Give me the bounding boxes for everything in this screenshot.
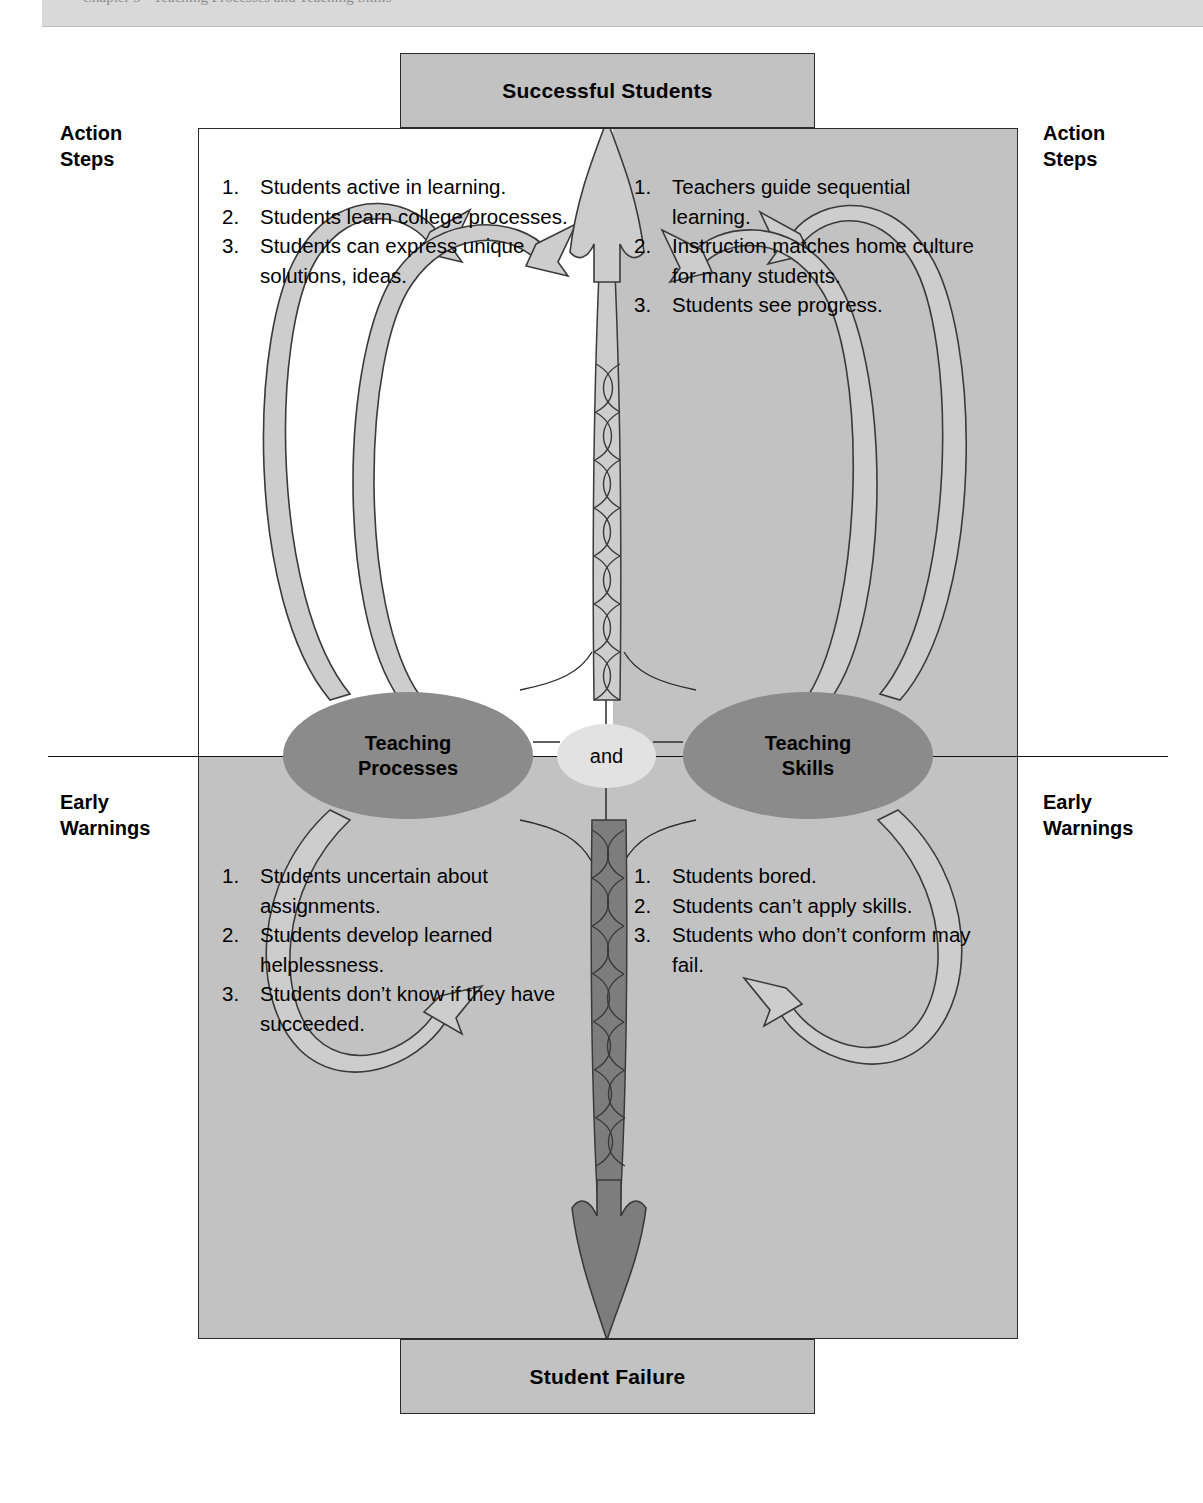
list-item-text: Students who don’t conform may fail.	[672, 920, 984, 979]
list-item: 2. Students can’t apply skills.	[634, 891, 984, 921]
list-item-text: Students uncertain about assignments.	[260, 861, 592, 920]
outcome-box-bottom-label: Student Failure	[530, 1365, 686, 1389]
quadrant-list-bottom-right: 1. Students bored. 2. Students can’t app…	[634, 861, 984, 979]
list-item-number: 1.	[222, 172, 260, 202]
list-item-text: Students develop learned helplessness.	[260, 920, 592, 979]
side-label-early-warnings-right: Early Warnings	[1043, 789, 1133, 841]
list-item: 3. Students who don’t conform may fail.	[634, 920, 984, 979]
list-item-number: 2.	[222, 202, 260, 232]
list-item-text: Students can express unique solutions, i…	[260, 231, 592, 290]
list-item-number: 3.	[634, 920, 672, 950]
list-item: 1. Students bored.	[634, 861, 984, 891]
side-label-action-steps-left: Action Steps	[60, 120, 122, 172]
outcome-box-top-label: Successful Students	[502, 79, 712, 103]
list-item: 2. Students learn college processes.	[222, 202, 592, 232]
side-label-early-warnings-left: Early Warnings	[60, 789, 150, 841]
node-teaching-skills[interactable]: Teaching Skills	[683, 692, 933, 819]
list-item-number: 1.	[222, 861, 260, 891]
list-item: 3. Students can express unique solutions…	[222, 231, 592, 290]
list-item-number: 3.	[222, 979, 260, 1009]
node-connector-and[interactable]: and	[557, 724, 656, 788]
quadrant-list-bottom-left: 1. Students uncertain about assignments.…	[222, 861, 592, 1038]
list-item: 1. Teachers guide sequential learning.	[634, 172, 984, 231]
diagram-page: Chapter 5 • Teaching Processes and Teach…	[0, 0, 1203, 1503]
list-item-text: Teachers guide sequential learning.	[672, 172, 984, 231]
list-item: 1. Students uncertain about assignments.	[222, 861, 592, 920]
list-item-text: Students don’t know if they have succeed…	[260, 979, 592, 1038]
list-item: 3. Students don’t know if they have succ…	[222, 979, 592, 1038]
list-item: 2. Instruction matches home culture for …	[634, 231, 984, 290]
node-teaching-processes-label: Teaching Processes	[358, 731, 458, 781]
node-teaching-skills-label: Teaching Skills	[765, 731, 851, 781]
list-item-text: Students can’t apply skills.	[672, 891, 984, 921]
node-connector-label: and	[590, 744, 623, 769]
quadrant-list-top-left: 1. Students active in learning. 2. Stude…	[222, 172, 592, 290]
list-item: 3. Students see progress.	[634, 290, 984, 320]
list-item-text: Instruction matches home culture for man…	[672, 231, 984, 290]
quadrant-list-top-right: 1. Teachers guide sequential learning. 2…	[634, 172, 984, 320]
outcome-box-successful-students[interactable]: Successful Students	[400, 53, 815, 128]
list-item: 1. Students active in learning.	[222, 172, 592, 202]
list-item-text: Students active in learning.	[260, 172, 592, 202]
list-item-number: 2.	[634, 231, 672, 261]
list-item-number: 3.	[634, 290, 672, 320]
outcome-box-student-failure[interactable]: Student Failure	[400, 1339, 815, 1414]
list-item: 2. Students develop learned helplessness…	[222, 920, 592, 979]
list-item-number: 1.	[634, 172, 672, 202]
list-item-text: Students see progress.	[672, 290, 984, 320]
side-label-action-steps-right: Action Steps	[1043, 120, 1105, 172]
list-item-number: 2.	[222, 920, 260, 950]
list-item-number: 2.	[634, 891, 672, 921]
list-item-text: Students learn college processes.	[260, 202, 592, 232]
node-teaching-processes[interactable]: Teaching Processes	[283, 692, 533, 819]
list-item-number: 3.	[222, 231, 260, 261]
list-item-text: Students bored.	[672, 861, 984, 891]
list-item-number: 1.	[634, 861, 672, 891]
